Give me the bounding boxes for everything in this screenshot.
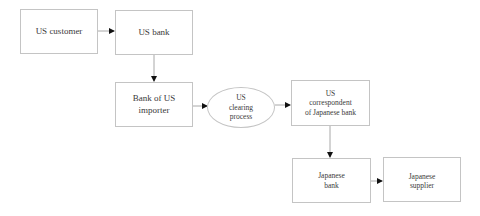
node-label: US bank	[138, 27, 169, 38]
node-label: Japanese supplier	[409, 172, 436, 191]
node-label: US clearing process	[229, 93, 253, 121]
node-bank-of-us-importer: Bank of US importer	[115, 82, 193, 127]
node-label: US correspondent of Japanese bank	[305, 89, 356, 117]
node-us-correspondent-of-japanese-bank: US correspondent of Japanese bank	[291, 80, 370, 126]
node-japanese-supplier: Japanese supplier	[383, 157, 461, 202]
node-label: US customer	[36, 26, 83, 37]
node-japanese-bank: Japanese bank	[292, 158, 371, 203]
node-us-bank: US bank	[115, 10, 193, 55]
node-us-customer: US customer	[20, 9, 98, 54]
node-label: Bank of US importer	[133, 93, 176, 116]
node-label: Japanese bank	[318, 171, 345, 190]
node-us-clearing-process: US clearing process	[207, 87, 275, 128]
